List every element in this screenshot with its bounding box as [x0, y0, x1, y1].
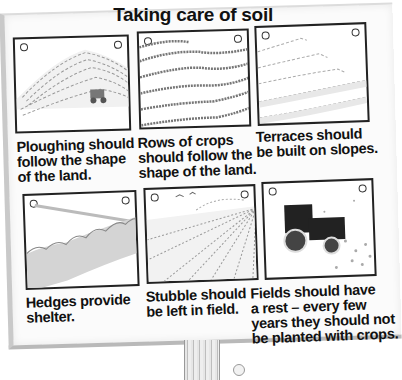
panel-fallow: [261, 178, 376, 280]
panel-stubble: [143, 184, 258, 284]
stubble-field-illustration: [145, 186, 258, 284]
panel-crop-rows: [137, 29, 252, 130]
tractor-icon: [283, 203, 346, 255]
caption-crop-rows: Rows of crops should follow the shape of…: [137, 132, 256, 181]
panel-ploughing: [13, 34, 131, 133]
caption-hedges: Hedges provide shelter.: [26, 292, 132, 326]
tractor-fallow-illustration: [263, 180, 376, 280]
caption-ploughing: Ploughing should follow the shape of the…: [16, 136, 135, 185]
hedgerow-illustration: [24, 192, 139, 290]
caption-fallow: Fields should have a rest – every few ye…: [250, 281, 398, 346]
signpost: [184, 340, 220, 380]
flower-icon: [233, 364, 245, 376]
panel-terraces: [254, 22, 369, 126]
caption-stubble: Stubble should be left in field.: [146, 286, 248, 319]
caption-terraces: Terraces should be built on slopes.: [256, 126, 379, 160]
crop-rows-illustration: [139, 30, 251, 129]
terraces-illustration: [256, 24, 369, 126]
contour-ploughing-illustration: [15, 36, 131, 133]
panel-hedges: [22, 190, 139, 290]
